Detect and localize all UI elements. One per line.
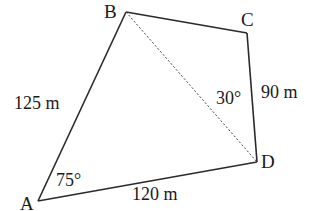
side-cd bbox=[247, 33, 257, 162]
angle-label-a: 75° bbox=[56, 170, 81, 190]
vertex-label-c: C bbox=[241, 9, 254, 30]
vertex-label-a: A bbox=[20, 193, 34, 211]
side-label-ab: 125 m bbox=[14, 93, 60, 113]
quadrilateral-diagram: A B C D 125 m 120 m 90 m 75° 30° bbox=[0, 0, 321, 211]
diagonal-bd bbox=[126, 12, 257, 162]
side-bc bbox=[126, 12, 247, 33]
side-label-ad: 120 m bbox=[132, 184, 178, 204]
vertex-label-b: B bbox=[104, 1, 117, 22]
angle-label-bdc: 30° bbox=[216, 88, 241, 108]
vertex-label-d: D bbox=[261, 151, 275, 172]
side-label-cd: 90 m bbox=[261, 82, 298, 102]
